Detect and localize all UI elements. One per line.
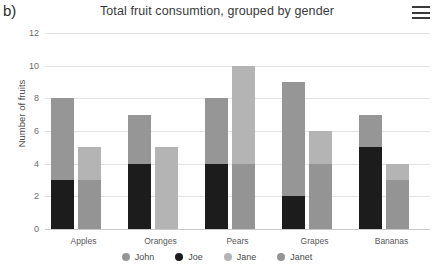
y-axis-tick-label: 10 [29,61,39,71]
bar-segment[interactable] [155,147,178,229]
legend-item[interactable]: John [122,252,155,262]
stacked-bar[interactable] [155,147,178,229]
bar-segment[interactable] [359,147,382,229]
legend-marker-icon [175,253,183,261]
legend-label: Jane [237,252,257,262]
hamburger-menu-icon[interactable] [412,5,430,20]
chart-figure: b) Total fruit consumtion, grouped by ge… [0,0,434,273]
x-axis-category-label: Bananas [353,236,430,246]
bar-group: Apples [45,33,122,229]
bar-segment[interactable] [386,180,409,229]
legend-item[interactable]: Joe [175,252,203,262]
x-axis-category-label: Apples [45,236,122,246]
x-axis-category-label: Pears [199,236,276,246]
bar-segment[interactable] [51,98,74,180]
bar-segment[interactable] [309,131,332,164]
legend-item[interactable]: Jane [224,252,257,262]
gridline [45,229,430,230]
y-axis-tick-label: 6 [34,126,39,136]
y-axis-tick-label: 2 [34,191,39,201]
bar-segment[interactable] [232,66,255,164]
chart-title: Total fruit consumtion, grouped by gende… [0,4,434,18]
bar-segment[interactable] [282,82,305,196]
y-axis-tick-label: 8 [34,93,39,103]
bar-segment[interactable] [309,164,332,229]
bar-group: Grapes [276,33,353,229]
legend-marker-icon [224,253,232,261]
legend-marker-icon [122,253,130,261]
bar-segment[interactable] [78,147,101,180]
bar-segment[interactable] [386,164,409,180]
x-axis-category-label: Grapes [276,236,353,246]
y-axis-tick-label: 0 [34,224,39,234]
stacked-bar[interactable] [282,82,305,229]
bar-segment[interactable] [128,115,151,164]
bar-group: Oranges [122,33,199,229]
stacked-bar[interactable] [51,98,74,229]
y-axis-tick-label: 4 [34,159,39,169]
legend-item[interactable]: Janet [277,252,312,262]
bar-segment[interactable] [282,196,305,229]
stacked-bar[interactable] [78,147,101,229]
legend-label: Joe [188,252,203,262]
bar-segment[interactable] [359,115,382,148]
plot-area: 024681012 ApplesOrangesPearsGrapesBanana… [45,33,430,229]
stacked-bar[interactable] [232,66,255,229]
chart-legend: JohnJoeJaneJanet [0,252,434,262]
legend-label: Janet [290,252,312,262]
y-axis-tick-label: 12 [29,28,39,38]
stacked-bar[interactable] [309,131,332,229]
menu-line-1 [412,6,430,8]
bar-segment[interactable] [205,164,228,229]
bar-segment[interactable] [205,98,228,163]
bar-segment[interactable] [78,180,101,229]
menu-line-3 [412,17,430,19]
legend-label: John [135,252,155,262]
bar-segment[interactable] [128,164,151,229]
stacked-bar[interactable] [128,115,151,229]
bar-segment[interactable] [51,180,74,229]
x-axis-category-label: Oranges [122,236,199,246]
legend-marker-icon [277,253,285,261]
bar-segment[interactable] [232,164,255,229]
stacked-bar[interactable] [205,98,228,229]
menu-line-2 [412,12,430,14]
bar-group: Bananas [353,33,430,229]
bar-group: Pears [199,33,276,229]
y-axis-title: Number of fruits [16,54,27,174]
stacked-bar[interactable] [386,164,409,229]
stacked-bar[interactable] [359,115,382,229]
